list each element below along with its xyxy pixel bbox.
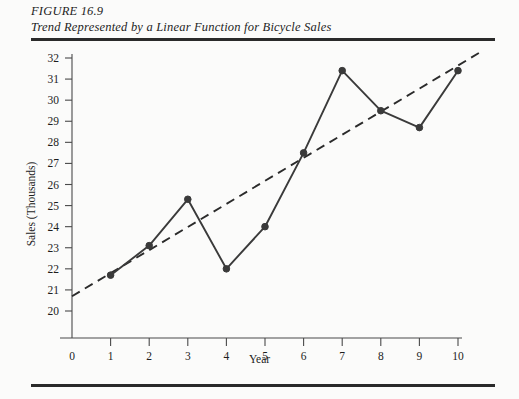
data-point-marker <box>223 266 230 273</box>
figure-caption-text: Trend Represented by a Linear Function f… <box>31 20 491 36</box>
data-point-marker <box>455 67 462 74</box>
y-tick-label: 30 <box>48 94 60 106</box>
data-point-marker <box>416 124 423 131</box>
chart-axes <box>60 54 462 338</box>
bottom-rule-divider <box>31 384 495 387</box>
y-tick-label: 32 <box>48 52 60 64</box>
data-point-marker <box>378 107 385 114</box>
y-tick-label: 28 <box>48 136 60 148</box>
linear-trend-line <box>72 52 481 297</box>
figure-container: FIGURE 16.9 Trend Represented by a Linea… <box>0 0 519 399</box>
y-axis-label: Sales (Thousands) <box>25 149 37 259</box>
y-tick-label: 22 <box>48 263 60 275</box>
y-tick-label: 20 <box>48 305 60 317</box>
data-point-marker <box>339 67 346 74</box>
y-tick-label: 25 <box>48 200 60 212</box>
chart-plot-area: 20212223242526272829303132 012345678910 … <box>0 40 519 380</box>
data-point-marker <box>185 196 192 203</box>
data-point-marker <box>107 272 114 279</box>
y-tick-label: 23 <box>48 242 60 254</box>
y-tick-label: 24 <box>48 221 60 233</box>
data-point-markers <box>107 67 461 278</box>
data-point-marker <box>300 150 307 157</box>
figure-caption-block: FIGURE 16.9 Trend Represented by a Linea… <box>31 4 491 35</box>
y-tick-label: 26 <box>48 179 60 191</box>
sales-data-line <box>111 71 458 276</box>
y-tick-label: 21 <box>48 284 60 296</box>
y-tick-label: 27 <box>48 157 60 169</box>
y-axis-ticks: 20212223242526272829303132 <box>48 52 73 317</box>
y-tick-label: 29 <box>48 115 60 127</box>
data-point-marker <box>146 242 153 249</box>
figure-id-label: FIGURE 16.9 <box>31 4 491 20</box>
y-tick-label: 31 <box>48 73 60 85</box>
chart-svg: 20212223242526272829303132 012345678910 <box>0 40 519 380</box>
data-point-marker <box>262 223 269 230</box>
x-axis-label: Year <box>0 353 519 365</box>
